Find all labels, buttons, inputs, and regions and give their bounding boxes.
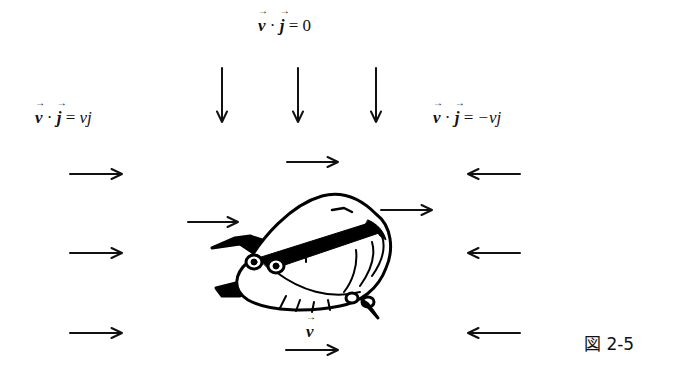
right-arrow-icon [286,345,338,355]
left-arrow-icon [468,328,520,338]
down-arrow-icon [217,68,227,122]
left-arrow-icon [468,248,520,258]
right-arrow-icon [381,205,432,215]
right-arrow-icon [287,157,338,167]
right-arrow-icon [188,217,238,227]
down-arrow-icon [293,68,303,122]
left-arrow-icon [468,169,520,179]
airplane-icon [212,194,391,318]
right-arrow-icon [70,328,122,338]
right-arrow-icon [70,169,122,179]
down-arrow-icon [371,68,381,122]
right-arrow-icon [70,248,122,258]
diagram-canvas [0,0,676,386]
